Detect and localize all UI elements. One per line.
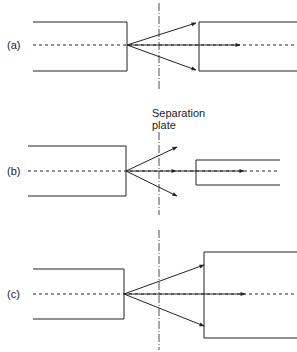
diagram-canvas — [0, 0, 297, 352]
ray-down-b — [126, 171, 177, 196]
receiver-tube-b — [196, 160, 280, 185]
ray-down-a — [127, 45, 196, 70]
receiver-tube-a — [199, 22, 297, 71]
ray-up-c — [124, 265, 204, 294]
panel-b — [28, 132, 280, 215]
panel-a — [33, 3, 297, 90]
ray-down-c — [124, 294, 204, 326]
panel-c — [33, 230, 297, 350]
ray-up-b — [126, 147, 177, 171]
source-tube-a — [33, 22, 127, 71]
receiver-tube-c — [204, 252, 297, 338]
ray-up-a — [127, 23, 196, 45]
